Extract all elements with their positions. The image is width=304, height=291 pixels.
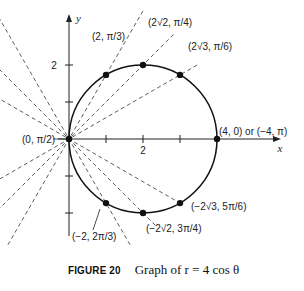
y-axis-arrow-icon bbox=[66, 14, 72, 22]
data-point bbox=[140, 62, 146, 68]
data-point bbox=[177, 72, 183, 78]
data-point bbox=[177, 200, 183, 206]
y-tick-label-2: 2 bbox=[51, 60, 57, 71]
data-point bbox=[103, 72, 109, 78]
point-label: (0, π/2) bbox=[22, 134, 55, 145]
dashed-ray-45 bbox=[0, 34, 174, 225]
leader-line bbox=[93, 209, 100, 230]
polar-graph: 22yx(0, π/2)(2, π/3)(2√2, π/4)(2√3, π/6)… bbox=[0, 0, 304, 262]
data-point bbox=[66, 136, 72, 142]
x-tick-label-2: 2 bbox=[140, 145, 146, 156]
dashed-ray-150 bbox=[0, 65, 175, 200]
data-point bbox=[103, 200, 109, 206]
figure-number: FIGURE 20 bbox=[68, 264, 121, 276]
point-label: (−2, 2π/3) bbox=[72, 231, 116, 242]
figure-title: Graph of r = 4 cos θ bbox=[135, 262, 240, 277]
point-label: (4, 0) or (−4, π) bbox=[219, 126, 287, 137]
dashed-ray-30 bbox=[0, 65, 197, 200]
point-label: (−2√2, 3π/4) bbox=[146, 223, 201, 234]
figure-caption: FIGURE 20 Graph of r = 4 cos θ bbox=[0, 262, 304, 278]
point-label: (−2√3, 5π/6) bbox=[191, 201, 246, 212]
y-axis-label: y bbox=[75, 12, 81, 24]
point-label: (2, π/3) bbox=[92, 31, 125, 42]
point-label: (2√2, π/4) bbox=[148, 17, 192, 28]
data-point bbox=[140, 210, 146, 216]
point-label: (2√3, π/6) bbox=[188, 41, 232, 52]
x-axis-label: x bbox=[277, 142, 283, 154]
dashed-ray-120 bbox=[0, 11, 130, 245]
